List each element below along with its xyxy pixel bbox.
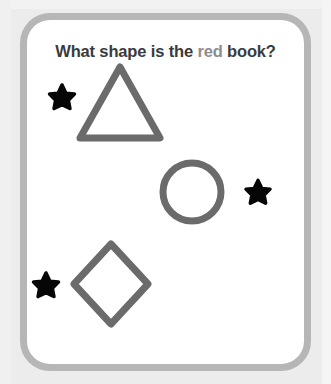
question-text-before: What shape is the (55, 42, 197, 60)
background-right-band (322, 0, 331, 384)
background-left-band (0, 0, 11, 384)
background-top-band (0, 0, 331, 9)
screenshot-canvas: What shape is the red book? (0, 0, 331, 384)
question-text: What shape is the red book? (27, 42, 304, 61)
question-text-after: book? (223, 42, 276, 60)
question-highlight-word: red (197, 42, 222, 60)
question-card: What shape is the red book? (20, 13, 311, 371)
